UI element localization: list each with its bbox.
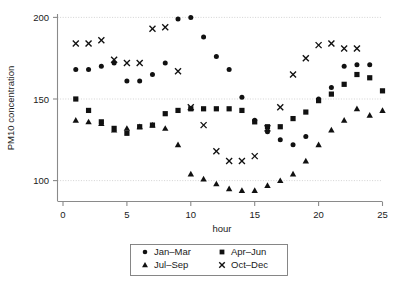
- point-jan-mar-h19: [303, 134, 308, 139]
- chart-legend: Jan–MarApr–JunJul–SepOct–Dec: [131, 245, 288, 276]
- point-apr-jun-h22: [342, 82, 347, 87]
- point-apr-jun-h19: [303, 109, 308, 114]
- point-jan-mar-h2: [86, 67, 91, 72]
- x-axis-title: hour: [212, 223, 231, 234]
- point-jan-mar-h14: [239, 95, 244, 100]
- point-apr-jun-h18: [290, 116, 295, 121]
- point-jan-mar-h3: [99, 64, 104, 69]
- y-tick-label-100: 100: [33, 175, 49, 186]
- point-apr-jun-h12: [214, 106, 219, 111]
- point-apr-jun-h24: [367, 75, 372, 80]
- point-jan-mar-h21: [329, 85, 334, 90]
- point-jan-mar-h9: [176, 17, 181, 22]
- x-tick-label-0: 0: [60, 209, 65, 220]
- x-tick-label-10: 10: [186, 209, 197, 220]
- y-axis-title: PM10 concentration: [5, 66, 16, 151]
- point-apr-jun-h17: [278, 124, 283, 129]
- point-apr-jun-h25: [380, 88, 385, 93]
- point-jan-mar-h17: [278, 137, 283, 142]
- point-jan-mar-h8: [163, 61, 168, 66]
- point-apr-jun-h23: [354, 72, 359, 77]
- point-jan-mar-h13: [227, 67, 232, 72]
- point-apr-jun-h8: [163, 111, 168, 116]
- y-tick-label-150: 150: [33, 94, 49, 105]
- point-apr-jun-h13: [227, 106, 232, 111]
- legend-label-apr-jun: Apr–Jun: [231, 246, 266, 257]
- legend-label-jul-sep: Jul–Sep: [154, 259, 188, 270]
- point-jan-mar-h23: [354, 62, 359, 67]
- legend-label-jan-mar: Jan–Mar: [154, 246, 191, 257]
- point-jan-mar-h12: [214, 54, 219, 59]
- y-tick-label-200: 200: [33, 12, 49, 23]
- chart-figure: 100150200 0510152025 PM10 concentration …: [0, 0, 408, 287]
- x-tick-label-5: 5: [124, 209, 129, 220]
- point-jan-mar-h5: [124, 79, 129, 84]
- point-jan-mar-h24: [367, 62, 372, 67]
- point-apr-jun-h9: [175, 108, 180, 113]
- point-jan-mar-h11: [201, 34, 206, 39]
- x-tick-label-15: 15: [249, 209, 260, 220]
- point-apr-jun-h21: [329, 92, 334, 97]
- point-jan-mar-h22: [342, 64, 347, 69]
- figure-background: [0, 0, 408, 287]
- point-jan-mar-h7: [150, 72, 155, 77]
- legend-label-oct-dec: Oct–Dec: [231, 259, 268, 270]
- pm10-scatter-plot: 100150200 0510152025 PM10 concentration …: [0, 0, 408, 287]
- legend-marker-jan-mar: [143, 250, 148, 255]
- point-jan-mar-h18: [291, 142, 296, 147]
- legend-marker-apr-jun: [220, 250, 225, 255]
- x-tick-label-20: 20: [313, 209, 324, 220]
- x-tick-label-25: 25: [377, 209, 388, 220]
- point-jan-mar-h6: [137, 79, 142, 84]
- point-apr-jun-h14: [239, 108, 244, 113]
- point-apr-jun-h5: [124, 131, 129, 136]
- point-jan-mar-h1: [73, 67, 78, 72]
- point-apr-jun-h20: [316, 98, 321, 103]
- point-apr-jun-h1: [73, 96, 78, 101]
- point-apr-jun-h15: [252, 119, 257, 124]
- point-apr-jun-h11: [201, 106, 206, 111]
- point-apr-jun-h2: [86, 108, 91, 113]
- point-jan-mar-h10: [188, 15, 193, 20]
